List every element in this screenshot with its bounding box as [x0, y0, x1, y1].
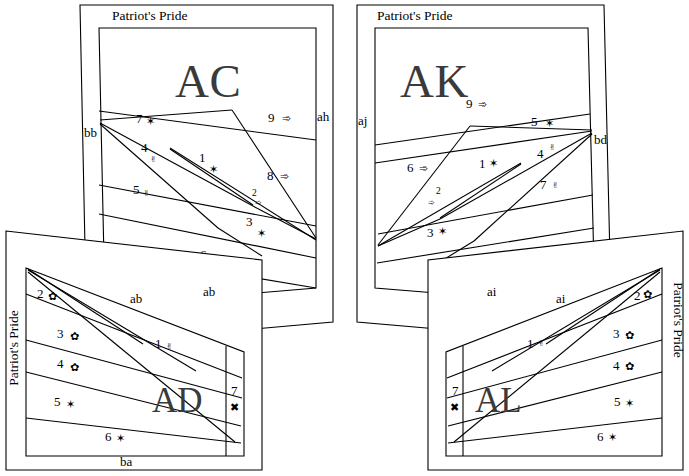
panel-ac-zone-4-num: 4 [141, 140, 148, 155]
schematic-diagram: Patriot's Pride AC 9 ➾ 7 ✶ 4 ✌ 1 ✶ 8 ➾ 5… [0, 0, 689, 476]
panel-ad-zone-4-florette-icon: ✿ [70, 361, 79, 374]
panel-al-zone-1-hand-icon: ✌ [538, 339, 545, 348]
panel-ad-zone-5-num: 5 [54, 394, 61, 409]
panel-ad-zone-6-num: 6 [105, 429, 112, 444]
panel-ac-zone-7-star-icon: ✶ [146, 115, 155, 128]
panel-ac-zone-5-num: 5 [133, 182, 140, 197]
panel-ac-zone-1-star-icon: ✶ [209, 163, 218, 176]
panel-ac-edge-right-label: ah [317, 109, 330, 124]
panel-ac-zone-7-num: 7 [136, 111, 143, 126]
panel-ac-edge-left-label: bb [84, 125, 97, 140]
panel-ad-zone-1-num: 1 [155, 336, 162, 351]
panel-al-zone-6-num: 6 [597, 429, 604, 444]
panel-ac-zone-8-arrow-icon: ➾ [280, 170, 289, 183]
panel-al-zone-3-florette-icon: ✿ [625, 329, 634, 342]
panel-al-edge-top-left-label: ai [487, 284, 497, 299]
panel-al-zone-7-num: 7 [452, 383, 459, 398]
panel-ad-edge-top-left-label: ab [130, 291, 142, 306]
panel-ac-zone-5-hand-icon: ✌ [143, 189, 150, 198]
panel-ac-zone-1-num: 1 [199, 150, 206, 165]
panel-al-zone-2-florette-icon: ✿ [643, 288, 652, 301]
panel-ad-zone-2-num: 2 [37, 286, 44, 301]
panel-ak-code: AK [400, 55, 469, 107]
panel-ac-zone-3-star-icon: ✶ [257, 227, 266, 240]
panel-ak-title: Patriot's Pride [377, 8, 453, 23]
panel-al-side-title: Patriot's Pride [671, 282, 686, 358]
panel-al-zone-4-florette-icon: ✿ [625, 360, 634, 373]
panel-ac-zone-4-hand-icon: ✌ [150, 155, 157, 164]
panel-ak-zone-3-star-icon: ✶ [438, 225, 447, 238]
panel-ac-zone-3-num: 3 [246, 214, 253, 229]
panel-ad-zone-7-num: 7 [231, 383, 238, 398]
panel-ad-side-title: Patriot's Pride [6, 310, 21, 386]
panel-ak-zone-4-num: 4 [537, 146, 544, 161]
panel-al-zone-1-num: 1 [527, 336, 534, 351]
panel-ac-zone-2-num: 2 [252, 188, 257, 198]
panel-ac-zone-9-num: 9 [268, 110, 275, 125]
panel-al-edge-top-right-label: ai [556, 291, 566, 306]
panel-ac-title: Patriot's Pride [112, 8, 188, 23]
panel-ak-zone-5-num: 5 [531, 114, 538, 129]
panel-ad-zone-2-florette-icon: ✿ [48, 290, 57, 303]
panel-al-zone-5-num: 5 [614, 394, 621, 409]
panel-ad-zone-3-num: 3 [57, 326, 64, 341]
panel-ad-zone-6-star-icon: ✶ [116, 432, 125, 445]
panel-ak-zone-2-arrow-icon: ➾ [428, 198, 435, 207]
panel-ak-zone-3-num: 3 [427, 225, 434, 240]
panel-ad-edge-top-right-label: ab [203, 284, 215, 299]
panel-al-zone-7-cross-icon: ✖ [450, 401, 459, 414]
panel-ac-zone-2-arrow-icon: ➾ [255, 198, 262, 207]
panel-ac-zone-9-arrow-icon: ➾ [282, 112, 291, 125]
panel-ad-zone-4-num: 4 [57, 356, 64, 371]
panel-al-zone-6-star-icon: ✶ [608, 431, 617, 444]
panel-al-zone-5-star-icon: ✶ [625, 397, 634, 410]
panel-al-zone-3-num: 3 [613, 326, 620, 341]
panel-al-zone-2-num: 2 [634, 288, 641, 303]
panel-al-code: AL [475, 381, 522, 420]
panel-ak-zone-9-num: 9 [466, 96, 473, 111]
panel-ak-zone-9-arrow-icon: ➾ [478, 98, 487, 111]
panel-ak-zone-1-star-icon: ✶ [489, 157, 498, 170]
panel-ak-zone-7-hand-icon: ✌ [552, 181, 559, 190]
panel-ad: AD 2 ✿ 3 ✿ 1 ✌ 4 ✿ 5 ✶ 7 ✖ 6 ✶ ab ab ba … [6, 231, 262, 470]
panel-ad-zone-5-star-icon: ✶ [66, 398, 75, 411]
panel-ak-zone-6-arrow-icon: ➾ [419, 162, 428, 175]
panel-ak-zone-5-star-icon: ✶ [545, 117, 554, 130]
panel-ak-zone-4-hand-icon: ✌ [549, 143, 556, 152]
diagram-canvas: Patriot's Pride AC 9 ➾ 7 ✶ 4 ✌ 1 ✶ 8 ➾ 5… [0, 0, 689, 476]
panel-ak-zone-2-num: 2 [436, 186, 441, 196]
panel-ad-code: AD [152, 381, 203, 420]
panel-ak-edge-right-label: bd [594, 132, 608, 147]
panel-ad-edge-bottom-label: ba [120, 454, 133, 469]
panel-ad-zone-3-florette-icon: ✿ [70, 330, 79, 343]
panel-al: AL 2 ✿ 1 ✌ 3 ✿ 4 ✿ 7 ✖ 5 ✶ 6 ✶ ai ai Pat… [428, 231, 686, 470]
panel-ad-zone-7-cross-icon: ✖ [230, 401, 239, 414]
panel-ak-zone-7-num: 7 [540, 177, 547, 192]
panel-ak-zone-6-num: 6 [407, 160, 414, 175]
panel-ac-zone-8-num: 8 [267, 168, 274, 183]
panel-ac-code: AC [175, 55, 241, 107]
panel-ak-edge-left-label: aj [358, 113, 367, 128]
panel-al-zone-4-num: 4 [613, 358, 620, 373]
panel-ak-zone-1-num: 1 [479, 156, 486, 171]
panel-ad-zone-1-hand-icon: ✌ [166, 342, 173, 351]
